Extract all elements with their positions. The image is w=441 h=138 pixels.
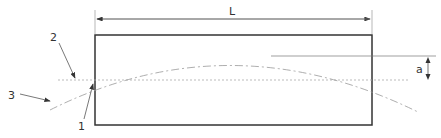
bar-deflection-diagram: L a 2 3 1 xyxy=(0,0,441,138)
offset-label: a xyxy=(416,63,423,76)
callout-3-leader xyxy=(20,94,50,101)
length-label: L xyxy=(229,5,236,18)
callout-2-leader xyxy=(59,43,75,78)
callout-3-label: 3 xyxy=(8,89,15,102)
callout-1-label: 1 xyxy=(78,120,85,133)
deflected-axis-curve xyxy=(50,65,418,112)
callout-1-leader xyxy=(84,84,93,119)
callout-2-label: 2 xyxy=(50,31,57,44)
